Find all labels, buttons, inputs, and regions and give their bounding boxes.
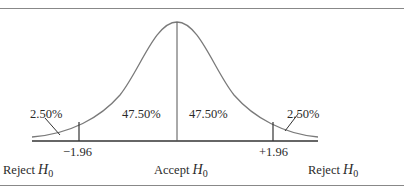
left-critical-value: −1.96 — [63, 146, 92, 159]
left-tail-area-label: 2.50% — [30, 108, 62, 121]
right-critical-value: +1.96 — [259, 146, 288, 159]
left-center-area-label: 47.50% — [122, 108, 161, 121]
reject-right-label: Reject H0 — [308, 163, 358, 179]
right-center-area-label: 47.50% — [189, 108, 228, 121]
right-tail-area-label: 2.50% — [287, 108, 319, 121]
accept-label: Accept H0 — [154, 163, 208, 179]
reject-left-label: Reject H0 — [3, 163, 53, 179]
normal-curve — [32, 22, 318, 137]
